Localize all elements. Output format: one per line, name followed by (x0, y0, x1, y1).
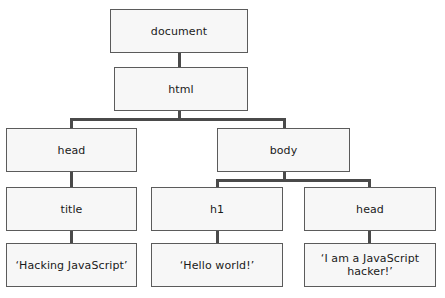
node-body: body (217, 128, 350, 172)
node-h1-label: h1 (207, 203, 227, 216)
connector-h1-text (216, 230, 219, 244)
connector-head2-text (368, 230, 371, 244)
dom-tree-diagram: document html head body title h1 head ‘H… (0, 0, 445, 298)
node-document-label: document (148, 25, 210, 38)
node-head-2-text: ‘I am a JavaScript hacker!’ (304, 243, 436, 287)
node-title-text: ‘Hacking JavaScript’ (6, 243, 137, 287)
node-h1-text-label: ‘Hello world!’ (177, 259, 257, 272)
node-body-label: body (267, 144, 301, 157)
connector-title-text (70, 230, 73, 244)
node-title-label: title (57, 203, 85, 216)
node-title-text-label: ‘Hacking JavaScript’ (12, 259, 130, 272)
node-title: title (6, 187, 137, 231)
node-head-2: head (304, 187, 436, 231)
connector-html-branch-bar (70, 118, 286, 121)
node-document: document (110, 9, 248, 53)
connector-head-title (70, 171, 73, 188)
connector-body-branch-bar (216, 179, 371, 182)
node-head-label: head (55, 144, 89, 157)
node-h1-text: ‘Hello world!’ (151, 243, 283, 287)
node-head: head (6, 128, 137, 172)
node-html-label: html (165, 83, 196, 96)
node-h1: h1 (151, 187, 283, 231)
node-html: html (114, 67, 248, 111)
connector-document-html (178, 52, 181, 68)
node-head-2-text-label: ‘I am a JavaScript hacker!’ (318, 252, 422, 278)
node-head-2-label: head (353, 203, 387, 216)
